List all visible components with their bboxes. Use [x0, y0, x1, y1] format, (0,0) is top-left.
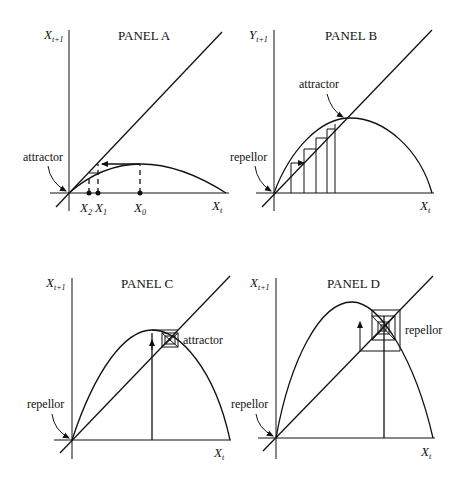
- panel-c-y-axis-label: Xt+1: [45, 275, 66, 292]
- panel-a-x0-label: X0: [133, 200, 146, 217]
- panel-a-attractor-arrow: [48, 166, 66, 191]
- panel-a-x0-point: [138, 191, 143, 196]
- panel-a-x-axis-label: Xt: [211, 198, 223, 215]
- panel-d-x-axis-label: Xt: [420, 444, 432, 461]
- panel-b-attractor-label: attractor: [299, 77, 339, 91]
- panel-c-45-degree-line: [60, 276, 230, 453]
- panel-b-attractor-arrow: [327, 94, 343, 117]
- panel-c-converging-spiral: [152, 330, 178, 347]
- panel-b-map-curve: [274, 118, 432, 193]
- panel-b-title: PANEL B: [325, 28, 377, 43]
- panel-a: PANEL A Xt+1 Xt X2 X1 X0 attractor: [23, 27, 229, 217]
- panel-a-45-degree-line: [56, 32, 222, 207]
- panel-b: PANEL B Yt+1 Xt attractor repellor: [230, 27, 434, 215]
- panel-a-x1-label: X1: [94, 200, 107, 217]
- panel-d-repellor-arrow: [256, 414, 273, 436]
- panel-c-repellor-arrow: [52, 414, 69, 438]
- panel-d-title: PANEL D: [327, 276, 380, 291]
- panel-a-x1-point: [96, 191, 101, 196]
- panel-c-repellor-label: repellor: [27, 397, 64, 411]
- panel-d-repellor-label-right: repellor: [405, 323, 442, 337]
- panel-d: PANEL D Xt+1 Xt repellor repellor: [231, 275, 442, 461]
- panel-b-repellor-arrow: [255, 166, 271, 191]
- panel-a-attractor-label: attractor: [23, 150, 63, 164]
- panel-c: PANEL C Xt+1 Xt attractor repellor: [27, 275, 231, 462]
- panel-b-y-axis-label: Yt+1: [249, 27, 268, 44]
- panel-c-title: PANEL C: [121, 276, 173, 291]
- panel-d-y-axis-label: Xt+1: [249, 275, 270, 292]
- cobweb-diagram-figure: PANEL A Xt+1 Xt X2 X1 X0 attractor PANEL…: [0, 0, 463, 484]
- panel-d-diverging-spiral: [360, 310, 400, 438]
- panel-a-title: PANEL A: [118, 28, 171, 43]
- panel-a-x2-point: [87, 191, 92, 196]
- panel-b-x-axis-label: Xt: [419, 198, 431, 215]
- panel-a-x2-label: X2: [79, 200, 92, 217]
- panel-a-y-axis-label: Xt+1: [43, 27, 64, 44]
- panel-b-repellor-label: repellor: [230, 150, 267, 164]
- panel-c-attractor-label: attractor: [183, 333, 223, 347]
- panel-c-x-axis-label: Xt: [213, 445, 225, 462]
- panel-d-repellor-label-origin: repellor: [231, 397, 268, 411]
